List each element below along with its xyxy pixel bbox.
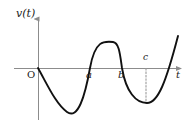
x-mark-label-b: b xyxy=(118,70,124,80)
x-mark-label-c: c xyxy=(143,53,148,62)
velocity-curve xyxy=(38,36,178,114)
origin-label: O xyxy=(27,70,35,80)
x-axis-label: t xyxy=(176,70,180,80)
y-axis-label: v(t) xyxy=(16,8,35,19)
x-mark-label-a: a xyxy=(86,70,92,80)
velocity-time-graph-figure: v(t) O a b c t xyxy=(0,0,189,126)
